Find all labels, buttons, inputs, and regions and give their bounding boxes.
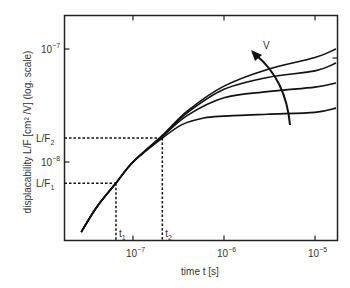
x-tick-label: 10−7: [126, 246, 145, 259]
y-axis-label: displacability L/F [cm² /V] (log. scale): [22, 51, 33, 214]
marker-guides: [65, 138, 163, 240]
curve-series-2: [81, 83, 336, 232]
v-label: V: [263, 40, 270, 51]
axis-ticks: [65, 16, 338, 241]
y-tick-label: 10−7: [41, 42, 60, 55]
x-tick-label: 10−6: [217, 246, 236, 259]
data-curves: [81, 49, 336, 232]
label-L_F1: L/F1: [36, 178, 54, 191]
curve-series-4: [81, 49, 336, 232]
x-axis-label: time t [s]: [181, 266, 219, 277]
plot-frame: [65, 16, 338, 241]
x-tick-label: 10−5: [308, 246, 327, 259]
label-L_F2: L/F2: [36, 133, 54, 146]
label-t2: t2: [165, 228, 172, 241]
chart: 10−710−610−510−710−8L/F1t1L/F2t2 V time …: [0, 0, 350, 288]
y-tick-label: 10−8: [41, 155, 60, 168]
curve-series-1: [81, 108, 336, 232]
label-t1: t1: [119, 228, 126, 241]
